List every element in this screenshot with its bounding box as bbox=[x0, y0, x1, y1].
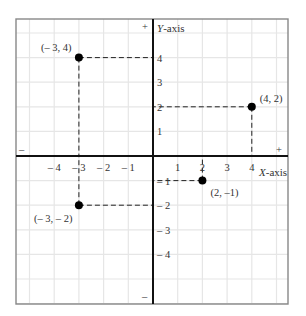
x-tick-label: – 3 bbox=[71, 162, 85, 173]
x-tick-label: – 2 bbox=[96, 162, 110, 173]
y-tick-label: 3 bbox=[157, 77, 162, 88]
y-axis-label: Y-axis bbox=[157, 22, 185, 34]
x-tick-labels: – 4– 3– 2– 11234 bbox=[47, 162, 256, 173]
point-label: (– 3, – 2) bbox=[34, 213, 73, 225]
point-label: (– 3, 4) bbox=[41, 42, 72, 54]
y-tick-label: 2 bbox=[157, 102, 162, 113]
data-point bbox=[248, 103, 256, 111]
data-point bbox=[75, 201, 83, 209]
x-tick-label: – 4 bbox=[47, 162, 62, 173]
data-point bbox=[198, 177, 206, 185]
x-axis-label: X-axis bbox=[258, 166, 287, 178]
y-positive-sign: + bbox=[142, 21, 148, 32]
x-positive-sign: + bbox=[276, 144, 282, 155]
y-tick-label: 4 bbox=[157, 53, 163, 64]
y-tick-label: – 3 bbox=[156, 225, 170, 236]
y-tick-label: – 1 bbox=[156, 176, 170, 187]
y-tick-label: – 2 bbox=[156, 200, 170, 211]
data-point bbox=[75, 54, 83, 62]
point-label: (2, –1) bbox=[210, 187, 238, 199]
x-tick-label: 3 bbox=[224, 162, 229, 173]
x-tick-label: 1 bbox=[175, 162, 180, 173]
y-tick-label: 1 bbox=[157, 126, 162, 137]
x-tick-label: 2 bbox=[200, 162, 205, 173]
x-negative-sign: – bbox=[18, 144, 25, 155]
coordinate-plane: – 4– 3– 2– 11234 4321– 1– 2– 3– 4 Y-axis… bbox=[0, 0, 306, 316]
y-negative-sign: – bbox=[141, 291, 148, 302]
point-label: (4, 2) bbox=[260, 93, 283, 105]
y-tick-label: – 4 bbox=[156, 249, 171, 260]
x-tick-label: – 1 bbox=[121, 162, 135, 173]
x-tick-label: 4 bbox=[249, 162, 255, 173]
